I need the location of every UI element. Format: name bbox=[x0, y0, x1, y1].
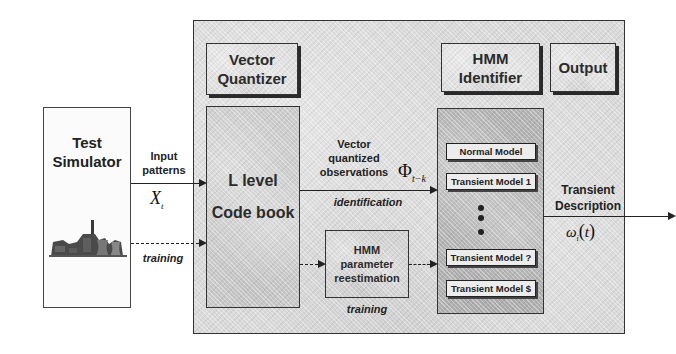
ellipsis-dot bbox=[478, 205, 484, 211]
test-simulator-box: Test Simulator bbox=[43, 107, 131, 308]
input-patterns-line1: Input bbox=[134, 149, 194, 163]
reestimation-line1: HMM bbox=[354, 243, 380, 257]
codebook-box: L level Code book bbox=[206, 106, 300, 308]
output-arrow-head bbox=[668, 212, 676, 220]
observations-line3: observations bbox=[306, 165, 402, 179]
test-simulator-title-line2: Simulator bbox=[44, 152, 130, 171]
phi-symbol-sub: t−k bbox=[412, 173, 426, 184]
input-arrow-head bbox=[199, 179, 207, 187]
training-label-left: training bbox=[133, 252, 193, 264]
observations-line2: quantized bbox=[306, 151, 402, 165]
hmm-reestimation-box: HMM parameter reestimation bbox=[325, 230, 409, 298]
transient-model-n-box: Transient Model $ bbox=[446, 280, 536, 297]
test-simulator-title: Test Simulator bbox=[44, 133, 130, 171]
test-simulator-title-line1: Test bbox=[44, 133, 130, 152]
phi-symbol-char: Φ bbox=[398, 160, 412, 181]
input-patterns-line2: patterns bbox=[134, 163, 194, 177]
ellipsis-dot bbox=[478, 229, 484, 235]
codebook-label-line2: Code book bbox=[207, 197, 299, 229]
observations-label: Vector quantized observations bbox=[306, 137, 402, 179]
input-symbol-sub: t bbox=[161, 201, 164, 211]
observations-line1: Vector bbox=[306, 137, 402, 151]
output-arrow-line bbox=[544, 216, 670, 217]
input-symbol-x: X bbox=[150, 188, 161, 208]
hmm-models-container: Normal Model Transient Model 1 Transient… bbox=[437, 108, 544, 314]
reestimation-training-caption: training bbox=[325, 303, 409, 315]
codebook-label-line1: L level bbox=[207, 165, 299, 197]
output-title: Output bbox=[558, 58, 607, 77]
identification-arrow-line bbox=[300, 190, 430, 191]
normal-model-box: Normal Model bbox=[446, 143, 536, 160]
hmm-identifier-title-box: HMM Identifier bbox=[441, 43, 540, 92]
transient-description-line1: Transient bbox=[550, 182, 626, 198]
transient-model-n-minus-box: Transient Model ? bbox=[446, 249, 536, 266]
training-dashed-line-to-models bbox=[409, 264, 430, 265]
input-arrow-line bbox=[131, 183, 199, 184]
hmm-identifier-title-line2: Identifier bbox=[459, 68, 522, 87]
output-title-box: Output bbox=[550, 43, 616, 92]
ellipsis-dot bbox=[478, 215, 484, 221]
transient-description-line2: Description bbox=[550, 198, 626, 214]
training-dashed-line-to-reestimation bbox=[300, 264, 318, 265]
power-plant-icon bbox=[49, 218, 127, 258]
training-dashed-line-left bbox=[131, 243, 199, 244]
identification-arrow-head bbox=[430, 186, 438, 194]
transient-model-1-box: Transient Model 1 bbox=[446, 173, 536, 190]
transient-description-label: Transient Description bbox=[550, 182, 626, 214]
omega-symbol: ωi(t) bbox=[566, 221, 595, 243]
training-arrow-head-to-models bbox=[430, 260, 438, 268]
identification-caption: identification bbox=[320, 196, 416, 208]
codebook-label: L level Code book bbox=[207, 165, 299, 229]
input-symbol: Xt bbox=[150, 188, 164, 211]
omega-symbol-char: ω bbox=[566, 224, 577, 240]
phi-symbol: Φt−k bbox=[398, 160, 426, 184]
hmm-identifier-title-line1: HMM bbox=[459, 49, 522, 68]
vector-quantizer-title-line1: Vector bbox=[217, 50, 286, 69]
training-arrow-head-to-reestimation bbox=[318, 260, 326, 268]
input-patterns-label: Input patterns bbox=[134, 149, 194, 177]
reestimation-line2: parameter bbox=[340, 257, 393, 271]
omega-paren-close: ) bbox=[589, 221, 595, 241]
training-arrow-head-left bbox=[199, 239, 207, 247]
vector-quantizer-title-box: Vector Quantizer bbox=[206, 43, 298, 95]
vector-quantizer-title-line2: Quantizer bbox=[217, 69, 286, 88]
reestimation-line3: reestimation bbox=[334, 271, 399, 285]
